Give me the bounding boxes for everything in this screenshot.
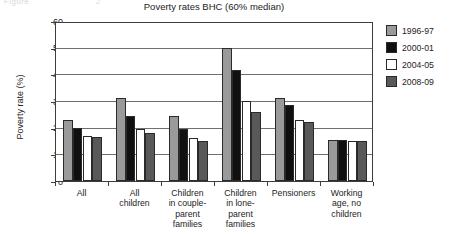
x-axis-tick-mark	[108, 182, 109, 186]
chart-legend: 1996-972000-012004-052008-09	[386, 22, 451, 90]
bar	[295, 120, 305, 181]
bar	[136, 129, 146, 181]
bar	[73, 128, 83, 181]
plot-area	[55, 22, 373, 182]
chart-title: Poverty rates BHC (60% median)	[55, 1, 373, 12]
bar	[328, 140, 338, 181]
x-axis-tick-mark	[320, 182, 321, 186]
bar	[357, 141, 367, 181]
legend-item: 2000-01	[386, 39, 451, 56]
x-axis-tick-mark	[55, 182, 56, 186]
bar-group	[268, 23, 321, 181]
bar	[275, 98, 285, 181]
legend-swatch	[386, 76, 397, 87]
bar	[338, 140, 348, 181]
bar-group	[321, 23, 374, 181]
bar-group	[56, 23, 109, 181]
bar-group	[109, 23, 162, 181]
bar	[83, 136, 93, 181]
bar-group	[162, 23, 215, 181]
bar	[348, 141, 358, 181]
x-axis-tick-mark	[373, 182, 374, 186]
x-axis-category-label-line: families	[208, 219, 273, 229]
legend-item: 1996-97	[386, 22, 451, 39]
bar	[126, 116, 136, 181]
x-axis-tick-mark	[214, 182, 215, 186]
bar	[189, 138, 199, 181]
legend-label: 2004-05	[402, 60, 434, 70]
bar	[198, 141, 208, 181]
bar	[116, 98, 126, 181]
bar	[304, 122, 314, 181]
x-axis-tick-mark	[161, 182, 162, 186]
bar	[285, 105, 295, 181]
x-axis-category-label-line: age, no	[314, 198, 379, 208]
bar	[242, 101, 252, 181]
bar	[63, 120, 73, 181]
bar	[222, 48, 232, 181]
bar	[92, 137, 102, 181]
legend-swatch	[386, 25, 397, 36]
legend-label: 2008-09	[402, 77, 434, 87]
bar	[179, 129, 189, 181]
bar-group	[215, 23, 268, 181]
x-axis-category-label-line: Working	[314, 188, 379, 198]
bar	[251, 112, 261, 181]
legend-swatch	[386, 59, 397, 70]
x-axis-category-label-line: parent	[208, 209, 273, 219]
bar	[169, 116, 179, 181]
x-axis-tick-mark	[267, 182, 268, 186]
legend-swatch	[386, 42, 397, 53]
bar	[145, 133, 155, 181]
x-axis-category-label: Workingage, nochildren	[314, 188, 379, 219]
cut-off-text-fragment: Figure	[4, 0, 29, 6]
legend-item: 2008-09	[386, 73, 451, 90]
legend-label: 1996-97	[402, 26, 434, 36]
x-axis-category-label-line: in lone-	[208, 198, 273, 208]
legend-label: 2000-01	[402, 43, 434, 53]
x-axis-category-label-line: children	[314, 209, 379, 219]
bar	[232, 70, 242, 181]
legend-item: 2004-05	[386, 56, 451, 73]
